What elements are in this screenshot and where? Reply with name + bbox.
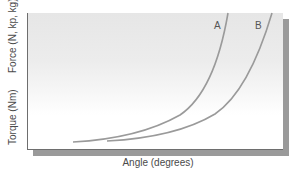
force-torque-angle-diagram: A B Force (N, kp, kg) Torque (Nm) Angle … xyxy=(0,0,296,179)
x-axis-label-text: Angle (degrees) xyxy=(122,157,193,168)
y-axis-label-force: Force (N, kp, kg) xyxy=(7,0,18,73)
x-axis-label: Angle (degrees) xyxy=(0,157,296,168)
curve-a-label: A xyxy=(214,20,221,31)
curve-b-label: B xyxy=(255,20,262,31)
curve-b xyxy=(107,13,272,141)
y-axis-label-torque: Torque (Nm) xyxy=(7,89,18,145)
curves-layer xyxy=(0,0,296,179)
curve-a xyxy=(73,13,228,142)
